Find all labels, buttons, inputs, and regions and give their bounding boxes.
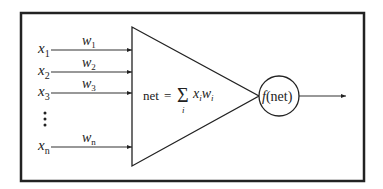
input-label-2: x2 bbox=[37, 62, 50, 81]
svg-text:net: net bbox=[143, 88, 159, 103]
ellipsis-dots bbox=[44, 112, 47, 127]
input-label-1: x1 bbox=[37, 40, 50, 59]
weight-label-3: w3 bbox=[82, 76, 96, 93]
neuron-diagram: x1 x2 x3 xn w1 w2 w3 wn net = Σ i xiwi f… bbox=[0, 0, 383, 189]
svg-text:xiwi: xiwi bbox=[192, 86, 214, 103]
weight-label-1: w1 bbox=[82, 33, 96, 50]
weight-label-n: wn bbox=[82, 130, 96, 147]
input-label-3: x3 bbox=[37, 83, 50, 102]
weight-label-2: w2 bbox=[82, 55, 96, 72]
svg-text:Σ: Σ bbox=[177, 84, 189, 106]
svg-text:=: = bbox=[164, 88, 171, 103]
input-label-n: xn bbox=[37, 137, 50, 156]
activation-label: f(net) bbox=[262, 89, 293, 105]
